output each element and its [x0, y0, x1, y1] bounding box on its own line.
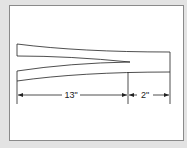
upper-strip-top-edge [17, 44, 170, 52]
arrow-left-13 [18, 93, 23, 97]
dimension-label-13: 13" [64, 90, 77, 100]
lower-strip-bottom-edge [17, 72, 170, 81]
arrow-left-2 [129, 93, 134, 97]
dimension-label-2: 2" [141, 90, 149, 100]
arrow-right-2 [164, 93, 169, 97]
arrow-right-13 [122, 93, 127, 97]
split-strip-diagram: 13" 2" [0, 0, 187, 148]
upper-strip-bottom-edge [17, 56, 130, 62]
lower-strip-top-edge [17, 62, 130, 71]
